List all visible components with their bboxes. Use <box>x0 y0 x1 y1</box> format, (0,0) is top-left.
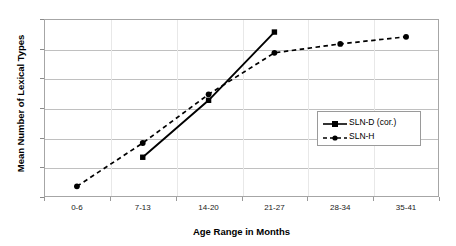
x-tick-mark <box>242 197 243 201</box>
x-tick-label: 7-13 <box>135 203 151 212</box>
x-tick-mark <box>176 197 177 201</box>
legend-item-sln-d: SLN-D (cor.) <box>322 115 420 129</box>
legend-label-sln-h: SLN-H <box>349 131 375 141</box>
legend-label-sln-d: SLN-D (cor.) <box>349 117 396 127</box>
category-separator <box>243 20 244 196</box>
x-tick-mark <box>110 197 111 201</box>
dashed-line-circle-marker-icon <box>322 130 348 142</box>
x-tick-mark <box>373 197 374 201</box>
x-tick-label: 0-6 <box>71 203 83 212</box>
line-chart: Mean Number of Lexical Types 05010015020… <box>0 0 456 246</box>
category-separator <box>308 20 309 196</box>
plot-area <box>44 19 439 197</box>
x-tick-label: 21-27 <box>264 203 284 212</box>
gridline <box>45 109 438 110</box>
x-tick-mark <box>44 197 45 201</box>
category-separator <box>374 20 375 196</box>
x-tick-label: 14-20 <box>198 203 218 212</box>
x-tick-label: 28-34 <box>330 203 350 212</box>
x-tick-label: 35-41 <box>396 203 416 212</box>
chart-legend: SLN-D (cor.) SLN-H <box>317 111 421 146</box>
x-axis-title: Age Range in Months <box>44 226 439 237</box>
x-tick-mark <box>439 197 440 201</box>
category-separator <box>111 20 112 196</box>
solid-line-square-marker-icon <box>322 116 348 128</box>
legend-item-sln-h: SLN-H <box>322 129 420 143</box>
gridline <box>45 50 438 51</box>
y-axis-title: Mean Number of Lexical Types <box>15 14 26 194</box>
x-tick-mark <box>307 197 308 201</box>
category-separator <box>177 20 178 196</box>
gridline <box>45 79 438 80</box>
gridline <box>45 168 438 169</box>
